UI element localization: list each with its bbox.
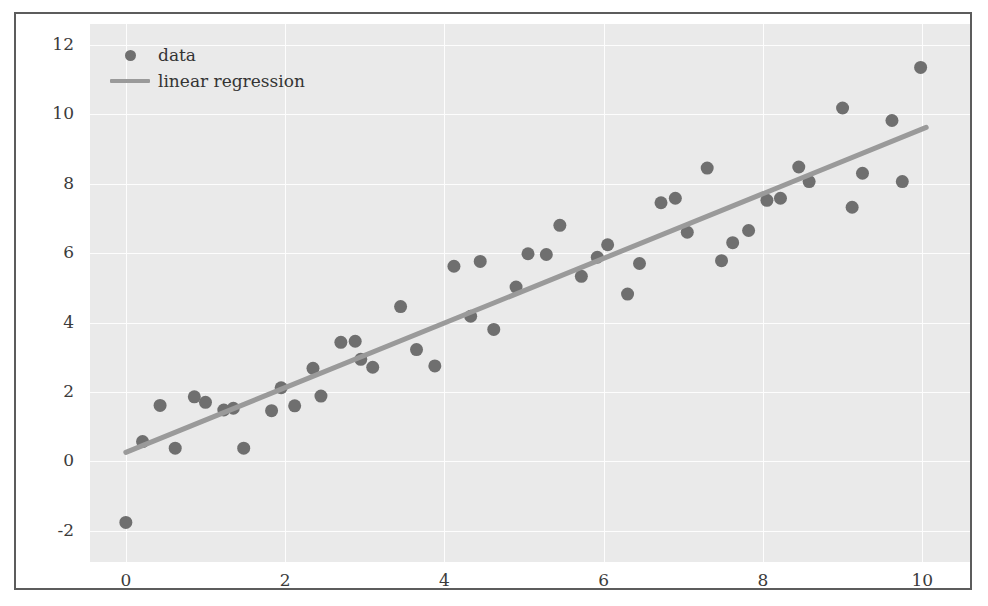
data-point xyxy=(701,162,714,175)
scatter-marker-icon xyxy=(102,50,158,61)
data-point xyxy=(366,361,379,374)
chart-legend: data linear regression xyxy=(102,42,332,94)
plot-axes xyxy=(90,24,970,562)
data-point xyxy=(265,404,278,417)
data-point xyxy=(119,516,132,529)
data-point xyxy=(288,399,301,412)
data-point xyxy=(726,236,739,249)
data-point xyxy=(314,390,327,403)
legend-label-data: data xyxy=(158,47,196,64)
data-point xyxy=(447,260,460,273)
y-tick-label: 8 xyxy=(16,175,74,192)
data-point xyxy=(154,399,167,412)
legend-item-linear-regression: linear regression xyxy=(102,68,332,94)
data-point xyxy=(601,238,614,251)
data-point xyxy=(199,396,212,409)
line-marker-icon xyxy=(102,79,158,83)
data-point xyxy=(334,336,347,349)
data-point xyxy=(633,257,646,270)
data-point xyxy=(914,61,927,74)
plot-canvas xyxy=(90,24,970,562)
y-tick-label: 4 xyxy=(16,314,74,331)
data-point xyxy=(428,359,441,372)
data-point xyxy=(792,161,805,174)
y-tick-label: 0 xyxy=(16,452,74,469)
regression-line xyxy=(126,127,926,452)
x-tick-label: 2 xyxy=(255,572,315,589)
x-tick-label: 8 xyxy=(733,572,793,589)
legend-item-data: data xyxy=(102,42,332,68)
data-point xyxy=(349,335,362,348)
x-tick-label: 6 xyxy=(574,572,634,589)
y-tick-label: 2 xyxy=(16,383,74,400)
data-point xyxy=(237,442,250,455)
data-point xyxy=(169,442,182,455)
data-point xyxy=(885,114,898,127)
data-point xyxy=(669,192,682,205)
data-point xyxy=(715,254,728,267)
y-tick-label: 10 xyxy=(16,105,74,122)
y-tick-label: -2 xyxy=(16,522,74,539)
data-point xyxy=(474,255,487,268)
data-point xyxy=(621,288,634,301)
data-point xyxy=(188,390,201,403)
data-point xyxy=(846,201,859,214)
data-point xyxy=(540,248,553,261)
x-tick-label: 10 xyxy=(892,572,952,589)
data-point xyxy=(553,219,566,232)
legend-label-linear-regression: linear regression xyxy=(158,73,305,90)
y-tick-label: 6 xyxy=(16,244,74,261)
data-point xyxy=(655,196,668,209)
data-point xyxy=(856,167,869,180)
figure-frame: -2024681012 0246810 data linear regressi… xyxy=(14,12,972,590)
x-tick-label: 0 xyxy=(96,572,156,589)
x-tick-label: 4 xyxy=(414,572,474,589)
data-point xyxy=(394,300,407,313)
data-point xyxy=(742,224,755,237)
data-point xyxy=(410,343,423,356)
data-point xyxy=(774,192,787,205)
data-point xyxy=(896,175,909,188)
data-point xyxy=(522,247,535,260)
y-tick-label: 12 xyxy=(16,36,74,53)
data-point xyxy=(836,101,849,114)
data-point xyxy=(487,323,500,336)
